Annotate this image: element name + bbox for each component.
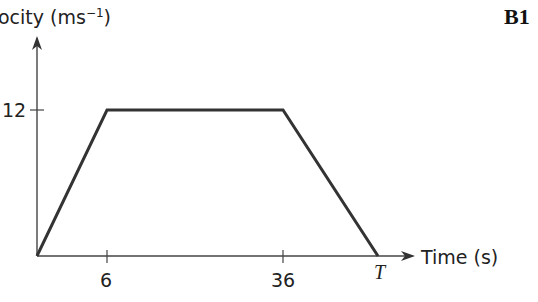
y-tick-label-12: 12 <box>2 99 26 121</box>
x-axis-label: Time (s) <box>420 246 498 268</box>
question-number: B1 <box>504 4 530 29</box>
x-tick-label-36: 36 <box>271 269 295 291</box>
velocity-line <box>37 110 378 256</box>
x-tick-label-T: T <box>374 261 387 283</box>
velocity-time-graph: 12 6 36 T ocity (ms−1) Time (s) B1 <box>0 0 538 302</box>
y-axis-label: ocity (ms−1) <box>0 6 111 28</box>
x-tick-label-6: 6 <box>100 269 112 291</box>
